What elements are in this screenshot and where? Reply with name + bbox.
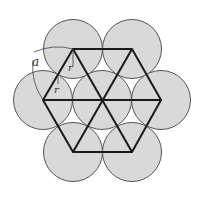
hexagonal-packing-diagram: a r r xyxy=(0,0,205,198)
label-a: a xyxy=(32,55,39,69)
